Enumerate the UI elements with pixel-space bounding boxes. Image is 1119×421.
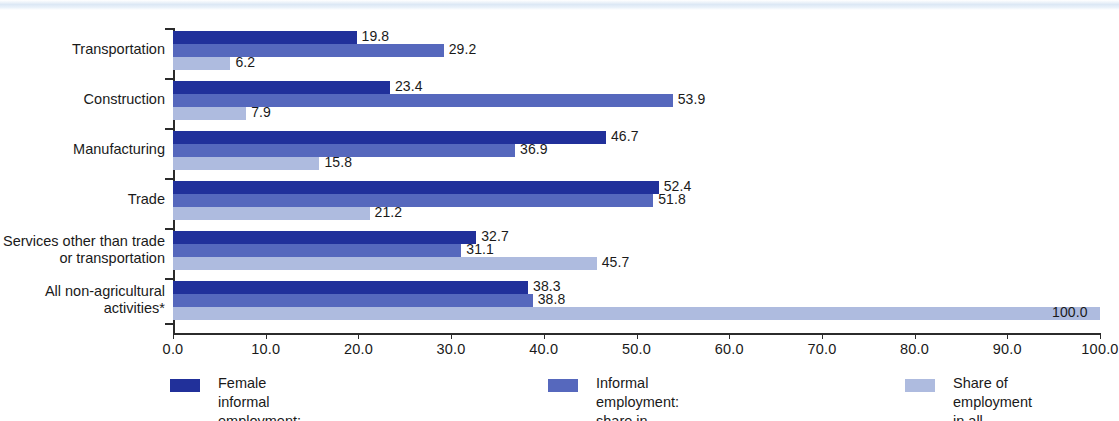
- legend-swatch: [170, 379, 200, 392]
- bar-value-label: 21.2: [375, 206, 403, 219]
- bar: [173, 281, 528, 294]
- bar: [173, 81, 390, 94]
- bar-value-label: 29.2: [449, 43, 477, 56]
- bar: [173, 307, 1100, 320]
- x-axis-tick: [1007, 333, 1008, 339]
- x-axis-tick-label: 10.0: [251, 341, 280, 357]
- y-axis-tick: [165, 28, 173, 30]
- bar-value-label: 19.8: [362, 30, 390, 43]
- bar: [173, 31, 357, 44]
- category-label-text: Trade: [0, 191, 165, 208]
- bar-value-label: 46.7: [611, 130, 639, 143]
- chart-legend: Female informal employment: share in tot…: [0, 376, 1119, 421]
- bar-value-label: 36.9: [520, 143, 548, 156]
- x-axis-tick: [822, 333, 823, 339]
- bar-value-label: 38.8: [538, 293, 566, 306]
- bar: [173, 107, 246, 120]
- legend-label: Female informal employment: share in tot…: [218, 374, 301, 421]
- x-axis-tick: [729, 333, 730, 339]
- y-axis-tick: [165, 323, 173, 325]
- x-axis-tick: [173, 333, 174, 339]
- bar-value-label: 15.8: [324, 156, 352, 169]
- x-axis-tick: [915, 333, 916, 339]
- legend-label: Informal employment: share in total empl…: [596, 374, 679, 421]
- bar-value-label: 7.9: [251, 106, 271, 119]
- bar: [173, 207, 370, 220]
- legend-swatch: [548, 379, 578, 392]
- bar: [173, 294, 533, 307]
- bar-value-label: 31.1: [466, 243, 494, 256]
- x-axis-tick-label: 0.0: [163, 341, 184, 357]
- bar-value-label: 6.2: [235, 56, 255, 69]
- legend-label: Share of employment in all activities: [953, 374, 1032, 421]
- x-axis-tick: [637, 333, 638, 339]
- category-label-text: Services other than trade or transportat…: [0, 233, 165, 267]
- y-axis-tick: [165, 228, 173, 230]
- legend-swatch: [905, 379, 935, 392]
- bar: [173, 244, 461, 257]
- x-axis-tick-label: 80.0: [900, 341, 929, 357]
- x-axis-tick-label: 70.0: [807, 341, 836, 357]
- bar: [173, 181, 659, 194]
- bar: [173, 194, 653, 207]
- x-axis-tick-label: 60.0: [715, 341, 744, 357]
- bar-value-label: 45.7: [602, 256, 630, 269]
- x-axis-tick-label: 40.0: [529, 341, 558, 357]
- bar: [173, 157, 319, 170]
- x-axis-tick-label: 50.0: [622, 341, 651, 357]
- y-axis-tick: [165, 78, 173, 80]
- horizontal-grouped-bar-chart: 0.010.020.030.040.050.060.070.080.090.01…: [0, 0, 1119, 421]
- category-label-text: Construction: [0, 91, 165, 108]
- x-axis-tick: [1100, 333, 1101, 339]
- bar: [173, 44, 444, 57]
- bar-value-label: 51.8: [658, 193, 686, 206]
- bar: [173, 94, 673, 107]
- x-axis-tick: [544, 333, 545, 339]
- bar-value-label: 100.0: [1052, 306, 1088, 319]
- x-axis-tick: [358, 333, 359, 339]
- x-axis-tick: [266, 333, 267, 339]
- bar: [173, 57, 230, 70]
- x-axis-tick: [451, 333, 452, 339]
- category-label-text: Manufacturing: [0, 141, 165, 158]
- x-axis-tick-label: 90.0: [993, 341, 1022, 357]
- category-label-text: All non-agricultural activities*: [0, 283, 165, 317]
- bar-value-label: 23.4: [395, 80, 423, 93]
- x-axis-tick-label: 100.0: [1081, 341, 1118, 357]
- y-axis-tick: [165, 128, 173, 130]
- x-axis-tick-label: 20.0: [344, 341, 373, 357]
- bar-value-label: 53.9: [678, 93, 706, 106]
- bar: [173, 231, 476, 244]
- y-axis-tick: [165, 178, 173, 180]
- category-label-text: Transportation: [0, 41, 165, 58]
- y-axis-tick: [165, 278, 173, 280]
- x-axis-tick-label: 30.0: [437, 341, 466, 357]
- bar: [173, 257, 597, 270]
